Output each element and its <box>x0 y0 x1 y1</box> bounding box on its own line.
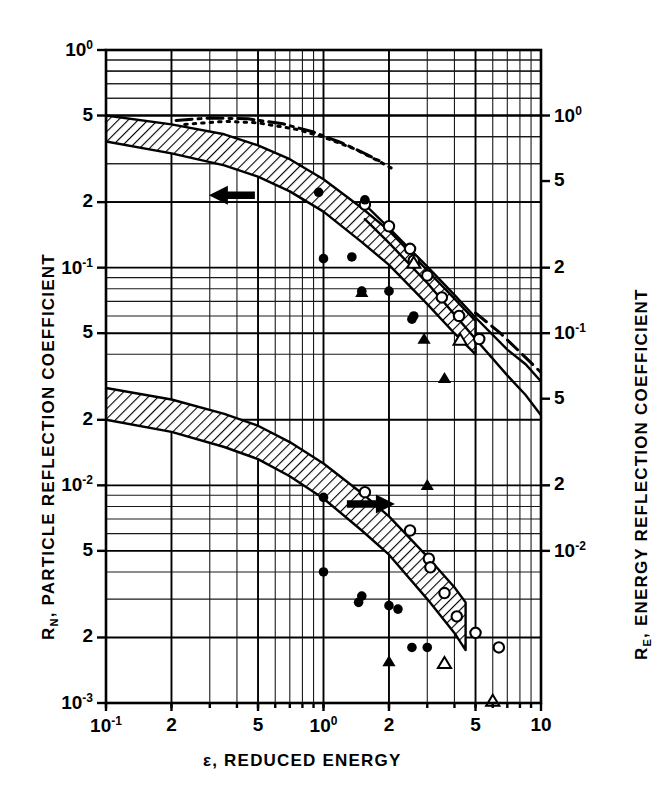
y-left-tick-label-9: 10-3 <box>61 692 93 712</box>
open-circle-marker <box>454 311 464 321</box>
open-circle-marker <box>439 588 449 598</box>
open-circle-marker <box>405 525 415 535</box>
y-right-subscript: E <box>641 638 653 647</box>
y-right-text: , ENERGY REFLECTION COEFFICIENT <box>632 288 651 638</box>
y-right-tick-label-2: 2 <box>554 257 565 276</box>
y-left-tick-label-2: 2 <box>82 191 93 210</box>
open-circle-marker <box>384 221 394 231</box>
filled-circle-marker <box>319 254 329 264</box>
y-left-tick-label-3: 10-1 <box>61 257 93 277</box>
x-tick-label-4: 2 <box>384 715 395 734</box>
y-left-subscript: N <box>48 617 60 626</box>
y-right-symbol: R <box>632 647 651 660</box>
y-left-tick-label-0: 100 <box>65 39 93 59</box>
filled-circle-marker <box>314 187 324 197</box>
x-axis-title: ε, REDUCED ENERGY <box>203 752 402 769</box>
y-left-text: , PARTICLE REFLECTION COEFFICIENT <box>39 253 58 617</box>
open-circle-marker <box>474 334 484 344</box>
y-left-tick-label-5: 2 <box>82 409 93 428</box>
y-left-tick-label-1: 5 <box>82 105 93 124</box>
filled-circle-marker <box>360 195 370 205</box>
y-right-tick-label-5: 2 <box>554 474 565 493</box>
filled-circle-marker <box>384 601 394 611</box>
y-right-tick-label-0: 100 <box>554 105 582 125</box>
x-tick-label-3: 100 <box>310 715 338 735</box>
filled-circle-marker <box>319 493 329 503</box>
open-circle-marker <box>452 611 462 621</box>
filled-circle-marker <box>393 604 403 614</box>
y-right-tick-label-3: 10-1 <box>554 322 586 342</box>
y-right-tick-label-1: 5 <box>554 170 565 189</box>
open-circle-marker <box>437 292 447 302</box>
filled-circle-marker <box>409 311 419 321</box>
open-circle-marker <box>470 628 480 638</box>
y-left-tick-label-6: 10-2 <box>61 474 93 494</box>
open-circle-marker <box>494 642 504 652</box>
open-circle-marker <box>360 487 370 497</box>
filled-circle-marker <box>422 643 432 653</box>
open-circle-marker <box>422 270 432 280</box>
open-circle-marker <box>425 562 435 572</box>
y-left-symbol: R <box>39 627 58 640</box>
y-left-tick-label-4: 5 <box>82 322 93 341</box>
y-right-tick-label-6: 10-2 <box>554 540 586 560</box>
y-axis-right-title: RE, ENERGY REFLECTION COEFFICIENT <box>633 288 653 660</box>
x-tick-label-1: 2 <box>166 715 177 734</box>
open-circle-marker <box>405 244 415 254</box>
y-axis-left-title: RN, PARTICLE REFLECTION COEFFICIENT <box>40 253 60 640</box>
y-left-tick-label-7: 5 <box>82 540 93 559</box>
filled-circle-marker <box>357 591 367 601</box>
filled-circle-marker <box>347 252 357 262</box>
y-left-tick-label-8: 2 <box>82 626 93 645</box>
x-tick-label-0: 10-1 <box>90 715 122 735</box>
y-right-tick-label-4: 5 <box>554 388 565 407</box>
filled-circle-marker <box>407 643 417 653</box>
x-tick-label-6: 10 <box>530 715 551 734</box>
filled-circle-marker <box>384 286 394 296</box>
x-tick-label-2: 5 <box>253 715 264 734</box>
x-tick-label-5: 5 <box>470 715 481 734</box>
filled-circle-marker <box>319 567 329 577</box>
